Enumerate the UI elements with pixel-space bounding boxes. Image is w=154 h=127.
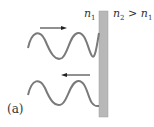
reflected-wave <box>28 81 99 106</box>
wave-reflection-diagram: n1 n2 > n1 (a) <box>0 0 154 127</box>
panel-label: (a) <box>7 102 24 116</box>
n2-gt-n1-label: n2 > n1 <box>113 7 152 22</box>
incident-wave <box>28 33 99 59</box>
left-arrow-icon <box>61 73 90 77</box>
right-arrow-icon <box>40 26 67 30</box>
n1-label: n1 <box>84 7 96 22</box>
boundary-slab <box>99 11 108 117</box>
